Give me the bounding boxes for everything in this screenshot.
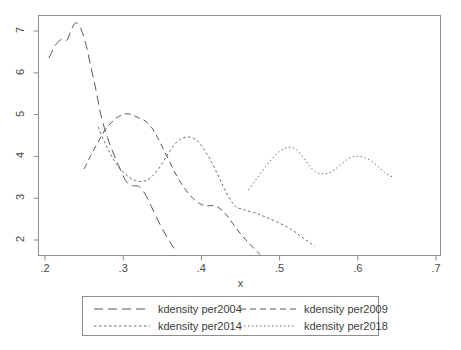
y-tick-label: 5 bbox=[14, 104, 26, 124]
x-tick-label: .6 bbox=[348, 262, 368, 274]
axis-ticks bbox=[34, 31, 437, 261]
y-tick-label: 2 bbox=[14, 229, 26, 249]
legend-entry: kdensity per2004 bbox=[93, 300, 242, 318]
legend-label: kdensity per2009 bbox=[304, 303, 388, 315]
y-tick-label: 7 bbox=[14, 20, 26, 40]
legend-label: kdensity per2004 bbox=[158, 303, 242, 315]
x-tick-label: .4 bbox=[191, 262, 211, 274]
chart-legend: kdensity per2004kdensity per2009kdensity… bbox=[82, 296, 379, 336]
legend-entry: kdensity per2018 bbox=[239, 317, 388, 335]
x-tick-label: .2 bbox=[35, 262, 55, 274]
plot-frame bbox=[39, 16, 441, 256]
y-tick-label: 6 bbox=[14, 62, 26, 82]
kdensity-chart: .2.3.4.5.6.7 234567 x kdensity per2004kd… bbox=[0, 0, 461, 350]
x-tick-label: .7 bbox=[426, 262, 446, 274]
legend-entry: kdensity per2009 bbox=[239, 300, 388, 318]
series-line-kdensity-per2009 bbox=[84, 114, 260, 255]
legend-line-sample bbox=[239, 303, 297, 315]
series-line-kdensity-per2014 bbox=[98, 127, 315, 246]
x-axis-title: x bbox=[221, 277, 261, 289]
x-tick-label: .5 bbox=[270, 262, 290, 274]
legend-label: kdensity per2014 bbox=[158, 320, 242, 332]
y-tick-label: 3 bbox=[14, 187, 26, 207]
legend-line-sample bbox=[93, 320, 151, 332]
legend-line-sample bbox=[93, 303, 151, 315]
legend-label: kdensity per2018 bbox=[304, 320, 388, 332]
series-line-kdensity-per2018 bbox=[248, 147, 393, 190]
x-tick-label: .3 bbox=[113, 262, 133, 274]
legend-line-sample bbox=[239, 320, 297, 332]
y-tick-label: 4 bbox=[14, 145, 26, 165]
series-line-kdensity-per2004 bbox=[49, 23, 174, 249]
plot-border bbox=[39, 16, 441, 256]
data-series-group bbox=[49, 23, 393, 255]
legend-entry: kdensity per2014 bbox=[93, 317, 242, 335]
